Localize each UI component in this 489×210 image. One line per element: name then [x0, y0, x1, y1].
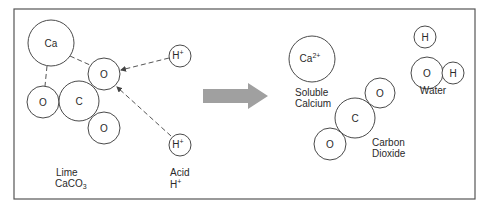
atom-water-h2: H [442, 62, 464, 84]
atom-charge: 2+ [312, 52, 320, 59]
soluble-calcium-label-1: Soluble [295, 87, 329, 98]
atom-o-bottom: O [88, 112, 120, 144]
atom-label: H [421, 32, 428, 43]
carbon-dioxide-label-2: Dioxide [372, 148, 406, 159]
atom-o-left: O [27, 86, 59, 118]
reaction-diagram: Ca O O C O H+ H+ [0, 0, 489, 210]
atom-label: H [172, 139, 179, 150]
atom-ca: Ca [28, 20, 74, 66]
atom-label: Ca [45, 38, 58, 49]
atom-label: Ca [300, 53, 313, 64]
atom-h-plus-2: H+ [169, 134, 191, 156]
atom-label: H [449, 68, 456, 79]
atom-co2-o2: O [314, 128, 346, 160]
atom-co2-o1: O [365, 78, 395, 108]
soluble-calcium-label-2: Calcium [295, 98, 331, 109]
atom-label: C [75, 96, 82, 107]
soluble-calcium: Ca2+ Soluble Calcium [289, 36, 335, 109]
atom-h-plus-1: H+ [169, 45, 191, 67]
atom-o-top: O [88, 58, 120, 90]
water-label: Water [420, 85, 447, 96]
atom-label: O [100, 123, 108, 134]
atom-label: O [100, 69, 108, 80]
atom-label: C [351, 113, 358, 124]
atom-c: C [59, 81, 99, 121]
atom-charge: + [180, 49, 184, 56]
atom-label: O [376, 88, 384, 99]
atom-charge: + [180, 138, 184, 145]
lime-formula: CaCO3 [55, 178, 87, 190]
atom-label: O [423, 68, 431, 79]
atom-water-h1: H [414, 26, 436, 48]
carbon-dioxide-label-1: Carbon [372, 137, 405, 148]
lime-label: Lime [56, 167, 78, 178]
atom-label: O [39, 97, 47, 108]
atom-label: H [172, 50, 179, 61]
acid-label: Acid [170, 167, 189, 178]
atom-label: O [326, 139, 334, 150]
